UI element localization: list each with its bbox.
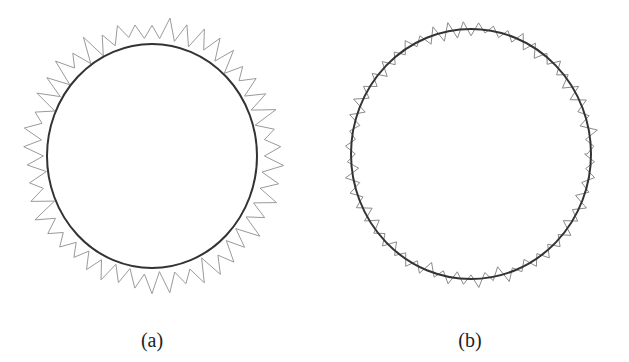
panel-b-graphic <box>346 22 598 288</box>
panel-a-graphic <box>24 18 284 294</box>
panel-label-b: (b) <box>458 329 481 352</box>
fitted-circle-b <box>351 29 591 279</box>
figure-canvas <box>0 0 629 362</box>
noisy-contour-b <box>346 22 598 288</box>
noisy-contour-a <box>24 18 284 294</box>
fitted-circle-a <box>47 44 257 268</box>
panel-label-a: (a) <box>141 329 163 352</box>
